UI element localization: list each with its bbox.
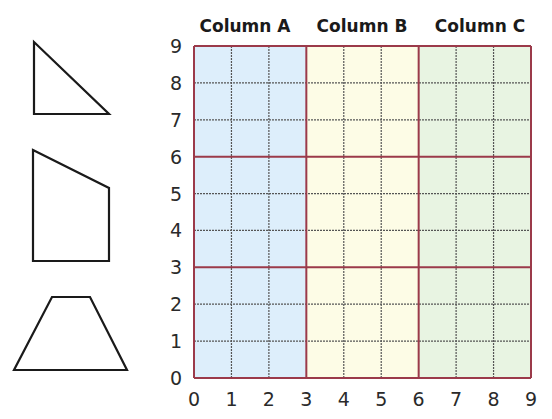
y-tick-label: 0	[170, 367, 182, 389]
column-b-background	[306, 46, 418, 378]
y-axis-labels: 0123456789	[170, 35, 182, 389]
y-tick-label: 4	[170, 219, 182, 241]
right-triangle-shape	[34, 42, 109, 114]
x-tick-label: 7	[450, 388, 462, 410]
trapezoid-shape	[14, 297, 127, 370]
y-tick-label: 8	[170, 72, 182, 94]
x-tick-label: 1	[225, 388, 237, 410]
x-tick-label: 9	[525, 388, 537, 410]
x-tick-label: 6	[413, 388, 425, 410]
y-tick-label: 3	[170, 256, 182, 278]
column-titles: Column A Column B Column C	[200, 16, 526, 36]
x-tick-label: 5	[375, 388, 387, 410]
y-tick-label: 2	[170, 293, 182, 315]
column-a-background	[194, 46, 306, 378]
x-axis-labels: 0123456789	[188, 388, 537, 410]
column-c-title: Column C	[435, 16, 525, 36]
x-tick-label: 4	[338, 388, 350, 410]
column-c-background	[419, 46, 531, 378]
x-tick-label: 0	[188, 388, 200, 410]
column-backgrounds	[194, 46, 531, 378]
x-tick-label: 3	[300, 388, 312, 410]
y-tick-label: 6	[170, 146, 182, 168]
y-tick-label: 9	[170, 35, 182, 57]
x-tick-label: 2	[263, 388, 275, 410]
quadrilateral-shape	[33, 150, 109, 261]
y-tick-label: 1	[170, 330, 182, 352]
diagram-canvas: Column A Column B Column C 0123456789 01…	[0, 0, 552, 419]
y-tick-label: 5	[170, 183, 182, 205]
y-tick-label: 7	[170, 109, 182, 131]
column-b-title: Column B	[317, 16, 408, 36]
x-tick-label: 8	[488, 388, 500, 410]
column-a-title: Column A	[200, 16, 292, 36]
shapes-panel	[14, 42, 127, 370]
